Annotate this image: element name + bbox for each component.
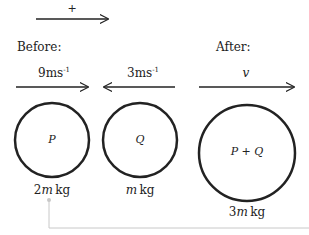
- after-heading: After:: [216, 40, 251, 54]
- before-heading: Before:: [17, 40, 61, 54]
- p-mass-label: 2m kg: [34, 183, 70, 197]
- connector-dot: [47, 198, 51, 202]
- diagram-canvas: [0, 0, 309, 235]
- positive-direction-label: +: [67, 2, 76, 15]
- q-mass-label: m kg: [126, 183, 155, 197]
- particle-q-label: Q: [135, 133, 144, 146]
- q-velocity-label: 3ms-1: [127, 66, 159, 80]
- pq-mass-label: 3m kg: [229, 205, 265, 219]
- p-velocity-label: 9ms-1: [38, 66, 70, 80]
- particle-p-label: P: [48, 133, 55, 146]
- particle-pq-label: P + Q: [231, 145, 264, 158]
- pq-velocity-label: v: [243, 66, 250, 80]
- connector-line: [49, 200, 309, 228]
